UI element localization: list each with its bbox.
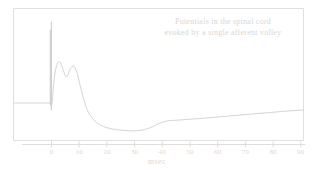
x-tick-label-60: 60: [214, 148, 221, 156]
x-tick-label-30: 30: [131, 148, 138, 156]
waveform-trace: [14, 62, 303, 131]
chart-title-line-2: evoked by a single afferent volley: [140, 28, 306, 39]
x-tick-label-20: 20: [103, 148, 110, 156]
x-tick-label-0: 0: [50, 148, 54, 156]
chart-title: Potentials in the spinal cord evoked by …: [140, 17, 306, 38]
x-tick-label-90: 90: [297, 148, 304, 156]
x-tick-label-70: 70: [242, 148, 249, 156]
figure-container: Potentials in the spinal cord evoked by …: [0, 0, 315, 173]
chart-title-line-1: Potentials in the spinal cord: [140, 17, 306, 28]
x-tick-label-80: 80: [269, 148, 276, 156]
x-axis-label: msec: [148, 157, 166, 166]
x-tick-label-50: 50: [186, 148, 193, 156]
x-tick-label-10: 10: [75, 148, 82, 156]
x-tick-label-40: 40: [159, 148, 166, 156]
